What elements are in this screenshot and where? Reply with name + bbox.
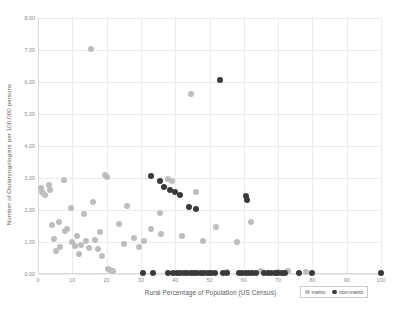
x-tick-label: 10 xyxy=(69,277,75,283)
y-tick-label: 4.00 xyxy=(25,143,36,149)
chart-legend[interactable]: metronon-metro xyxy=(300,286,368,298)
data-point-nonmetro xyxy=(157,178,163,184)
data-point-metro xyxy=(179,233,185,239)
x-tick-label: 60 xyxy=(241,277,247,283)
gridline-vertical xyxy=(141,18,142,274)
y-tick-label: 2.00 xyxy=(25,207,36,213)
data-point-metro xyxy=(97,229,103,235)
data-point-nonmetro xyxy=(244,197,250,203)
data-point-metro xyxy=(110,268,116,274)
data-point-nonmetro xyxy=(282,270,288,276)
gridline-vertical xyxy=(175,18,176,274)
data-point-nonmetro xyxy=(193,206,199,212)
data-point-nonmetro xyxy=(217,77,223,83)
x-tick-label: 0 xyxy=(37,277,40,283)
data-point-nonmetro xyxy=(140,270,146,276)
gridline-vertical xyxy=(278,18,279,274)
y-axis-title: Number of Otolaryngologists per 100,000 … xyxy=(0,0,16,309)
data-point-metro xyxy=(61,177,67,183)
data-point-metro xyxy=(158,231,164,237)
data-point-metro xyxy=(51,236,57,242)
scatter-chart: Number of Otolaryngologists per 100,000 … xyxy=(0,0,397,309)
data-point-metro xyxy=(116,221,122,227)
data-point-metro xyxy=(303,269,309,275)
data-point-nonmetro xyxy=(212,270,218,276)
x-tick-label: 40 xyxy=(172,277,178,283)
data-point-nonmetro xyxy=(177,192,183,198)
data-point-metro xyxy=(72,243,78,249)
data-point-metro xyxy=(169,178,175,184)
y-tick-label: 8.00 xyxy=(25,15,36,21)
x-tick-label: 100 xyxy=(377,277,386,283)
data-point-nonmetro xyxy=(309,270,315,276)
data-point-metro xyxy=(56,219,62,225)
x-tick-label: 70 xyxy=(275,277,281,283)
data-point-nonmetro xyxy=(150,270,156,276)
data-point-metro xyxy=(141,238,147,244)
data-point-metro xyxy=(131,235,137,241)
data-point-metro xyxy=(157,210,163,216)
x-tick-label: 90 xyxy=(344,277,350,283)
data-point-metro xyxy=(57,244,63,250)
data-point-metro xyxy=(81,211,87,217)
data-point-nonmetro xyxy=(148,173,154,179)
data-point-metro xyxy=(200,238,206,244)
legend-entry-non-metro[interactable]: non-metro xyxy=(332,289,363,295)
y-tick-label: 5.00 xyxy=(25,111,36,117)
data-point-metro xyxy=(136,244,142,250)
y-tick-label: 0.00 xyxy=(25,271,36,277)
data-point-metro xyxy=(234,239,240,245)
data-point-metro xyxy=(68,205,74,211)
gridline-vertical xyxy=(312,18,313,274)
legend-swatch-metro-icon xyxy=(305,290,310,295)
legend-swatch-non-metro-icon xyxy=(332,290,337,295)
data-point-nonmetro xyxy=(224,270,230,276)
y-tick-label: 1.00 xyxy=(25,239,36,245)
gridline-vertical xyxy=(381,18,382,274)
data-point-nonmetro xyxy=(253,270,259,276)
y-axis-line xyxy=(38,18,39,274)
gridline-vertical xyxy=(210,18,211,274)
data-point-metro xyxy=(148,226,154,232)
data-point-metro xyxy=(90,199,96,205)
data-point-metro xyxy=(92,237,98,243)
data-point-metro xyxy=(64,226,70,232)
data-point-metro xyxy=(124,203,130,209)
data-point-metro xyxy=(49,222,55,228)
data-point-metro xyxy=(213,224,219,230)
plot-area: 0.001.002.003.004.005.006.007.008.00 010… xyxy=(38,18,381,274)
y-tick-label: 6.00 xyxy=(25,79,36,85)
data-point-metro xyxy=(248,219,254,225)
legend-label: non-metro xyxy=(339,289,364,295)
data-point-metro xyxy=(76,251,82,257)
gridline-vertical xyxy=(107,18,108,274)
x-tick-label: 80 xyxy=(309,277,315,283)
data-point-metro xyxy=(104,174,110,180)
gridline-vertical xyxy=(347,18,348,274)
data-point-metro xyxy=(99,253,105,259)
data-point-metro xyxy=(95,246,101,252)
data-point-metro xyxy=(47,187,53,193)
data-point-metro xyxy=(74,233,80,239)
gridline-vertical xyxy=(72,18,73,274)
data-point-metro xyxy=(88,46,94,52)
x-tick-label: 20 xyxy=(104,277,110,283)
y-tick-label: 3.00 xyxy=(25,175,36,181)
legend-label: metro xyxy=(312,289,326,295)
data-point-metro xyxy=(42,192,48,198)
data-point-metro xyxy=(188,91,194,97)
data-point-nonmetro xyxy=(186,204,192,210)
legend-entry-metro[interactable]: metro xyxy=(305,289,325,295)
data-point-metro xyxy=(83,238,89,244)
y-tick-label: 7.00 xyxy=(25,47,36,53)
data-point-nonmetro xyxy=(378,270,384,276)
data-point-nonmetro xyxy=(296,270,302,276)
gridline-vertical xyxy=(244,18,245,274)
data-point-metro xyxy=(193,189,199,195)
data-point-metro xyxy=(121,241,127,247)
data-point-metro xyxy=(86,245,92,251)
x-tick-label: 50 xyxy=(207,277,213,283)
x-tick-label: 30 xyxy=(138,277,144,283)
